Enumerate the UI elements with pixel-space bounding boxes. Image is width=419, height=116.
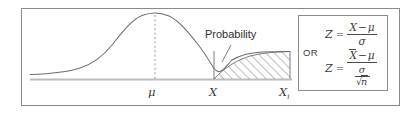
statistics-figure: Probability μ X Xi OR Z = X−μ σ Z = <box>0 0 419 116</box>
formula1-fraction: X−μ σ <box>347 22 377 47</box>
formula-stack: Z = X−μ σ Z = X−μ σ <box>321 19 387 89</box>
formula2-numerator: X−μ <box>347 50 376 62</box>
xi-axis-label-base: X <box>279 85 287 99</box>
formula1-numerator-mu: μ <box>368 21 375 33</box>
xi-axis-label-subscript: i <box>287 93 289 101</box>
formula1-numerator-minus: − <box>357 21 368 33</box>
formula-or-connector: OR <box>303 47 318 58</box>
mean-axis-label: μ <box>148 87 155 99</box>
x-axis-label: X <box>209 87 217 99</box>
formula2-fraction: X−μ σ √n <box>347 50 377 87</box>
formula1-lhs: Z <box>325 28 333 41</box>
formula1-numerator: X−μ <box>347 22 376 34</box>
probability-leader-line <box>222 45 231 62</box>
formula2-denominator: σ √n <box>353 63 372 87</box>
formula2-standard-error: σ √n <box>355 65 370 87</box>
probability-label: Probability <box>205 29 256 40</box>
formula2-numerator-mu: μ <box>368 49 375 61</box>
formula2-numerator-xbar: X <box>349 50 356 61</box>
formula1-denominator: σ <box>356 35 367 47</box>
z-score-formula-population: Z = X−μ σ <box>325 22 377 47</box>
formula1-numerator-x: X <box>349 21 356 33</box>
z-score-formula-sample-mean: Z = X−μ σ √n <box>325 50 377 87</box>
xi-axis-label: Xi <box>279 87 289 101</box>
formula2-numerator-minus: − <box>357 49 368 61</box>
formula2-radicand-n: n <box>361 75 368 87</box>
probability-tail-region <box>210 45 296 81</box>
formula1-equals: = <box>336 29 344 40</box>
formula-box: OR Z = X−μ σ Z = X−μ <box>298 15 388 91</box>
formula2-sqrt-n: √n <box>356 77 368 87</box>
formula2-equals: = <box>336 63 344 74</box>
formula2-lhs: Z <box>325 62 333 75</box>
sqrt-icon: √n <box>356 77 368 87</box>
